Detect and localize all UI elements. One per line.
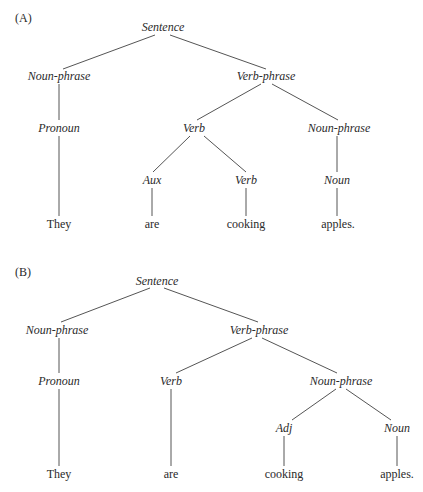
node-verb-main: Verb — [235, 173, 257, 187]
node-verb: Verb — [183, 121, 205, 135]
word-cooking: cooking — [227, 217, 266, 231]
word-are: are — [164, 467, 179, 481]
word-they: They — [47, 467, 72, 481]
node-adj: Adj — [276, 421, 293, 435]
node-sentence: Sentence — [136, 274, 179, 288]
node-verb-phrase: Verb-phrase — [237, 69, 296, 83]
panel-label-b: (B) — [15, 265, 31, 279]
node-noun-phrase-object: Noun-phrase — [310, 374, 373, 388]
node-noun-phrase: Noun-phrase — [26, 323, 89, 337]
node-sentence: Sentence — [142, 20, 185, 34]
node-pronoun: Pronoun — [38, 121, 80, 135]
node-verb-phrase: Verb-phrase — [230, 323, 289, 337]
word-cooking: cooking — [265, 467, 304, 481]
word-apples: apples. — [321, 217, 355, 231]
node-noun: Noun — [324, 173, 350, 187]
panel-label-a: (A) — [15, 11, 32, 25]
word-are: are — [145, 217, 160, 231]
word-apples: apples. — [380, 467, 414, 481]
word-they: They — [47, 217, 72, 231]
node-pronoun: Pronoun — [38, 374, 80, 388]
node-verb: Verb — [160, 374, 182, 388]
node-noun: Noun — [384, 421, 410, 435]
node-aux: Aux — [143, 173, 162, 187]
node-noun-phrase-object: Noun-phrase — [308, 121, 371, 135]
node-noun-phrase: Noun-phrase — [28, 69, 91, 83]
